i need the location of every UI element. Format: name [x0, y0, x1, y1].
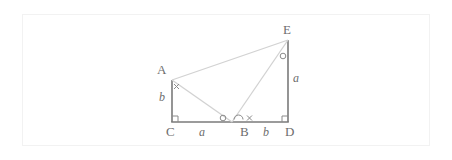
side-label-b-bottom: b	[263, 126, 269, 138]
side-label-b-left: b	[159, 91, 165, 103]
vertex-label-B: B	[240, 125, 249, 138]
cross-mark-right-of-B	[247, 116, 252, 121]
vertex-label-D: D	[285, 125, 294, 138]
right-angle-at-D	[282, 116, 288, 122]
segment-BE	[232, 40, 288, 122]
geometry-figure	[0, 0, 452, 160]
cross-mark-at-A	[174, 84, 179, 89]
circle-mark-at-E	[280, 53, 286, 59]
vertex-label-E: E	[283, 23, 291, 36]
right-angle-at-C	[172, 116, 178, 122]
segment-AE	[172, 40, 288, 80]
side-label-a-right: a	[293, 72, 299, 84]
vertex-label-C: C	[166, 125, 175, 138]
vertex-label-A: A	[157, 63, 166, 76]
side-label-a-bottom: a	[199, 126, 205, 138]
diagram-page: A E C B D b a b a	[0, 0, 452, 160]
